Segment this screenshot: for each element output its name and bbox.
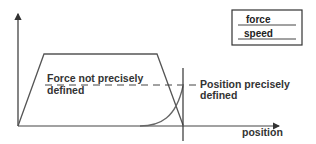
force-note-line1: Force not precisely [47,72,143,84]
legend-speed-label: speed [244,28,273,39]
position-note-line2: defined [200,89,237,101]
legend-force-label: force [246,14,271,25]
force-curve [140,86,183,126]
force-note-line2: defined [47,84,84,96]
legend: force speed [232,10,302,45]
x-axis-label: position [242,126,283,138]
speed-profile-line [18,54,183,126]
diagram-canvas: Force not precisely defined Position pre… [0,0,316,144]
